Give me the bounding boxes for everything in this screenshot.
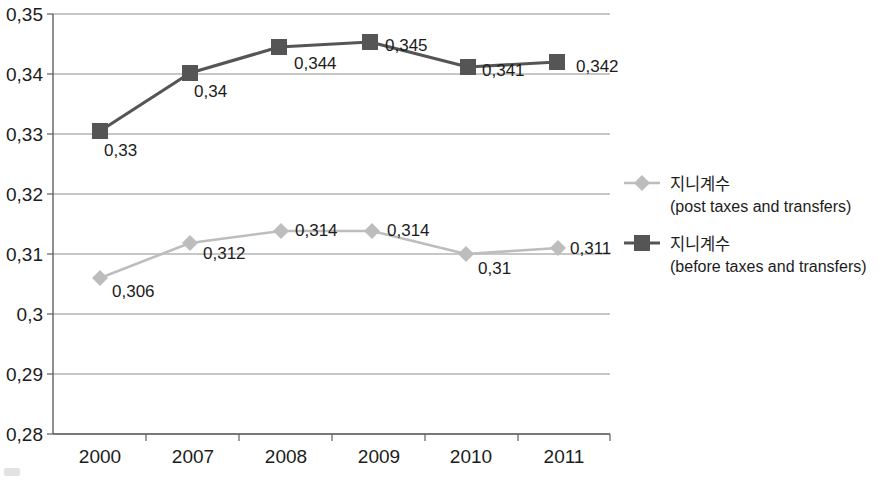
x-tick-label-2010: 2010: [450, 446, 492, 467]
legend-sublabel-post: (post taxes and transfers): [670, 198, 851, 215]
data-label-before-2007: 0,34: [194, 82, 227, 101]
data-label-before-2000: 0,33: [104, 141, 137, 160]
x-tick-label-2007: 2007: [172, 446, 214, 467]
data-point-before-2000: [92, 123, 108, 139]
data-label-post-2009: 0,314: [387, 221, 430, 240]
chart-background: [0, 0, 896, 484]
data-label-post-2010: 0,31: [478, 259, 511, 278]
data-label-post-2007: 0,312: [203, 244, 246, 263]
y-tick-label-0.28: 0,28: [6, 424, 43, 445]
data-label-post-2008: 0,314: [295, 221, 338, 240]
x-tick-label-2008: 2008: [265, 446, 307, 467]
data-point-before-2008: [271, 39, 287, 55]
y-tick-label-0.35: 0,35: [6, 4, 43, 25]
data-label-before-2010: 0,341: [482, 61, 525, 80]
legend-label-post: 지니계수: [670, 175, 730, 193]
chart-container: 0,35 0,34 0,33 0,32 0,31 0,3 0,29 0,28 2…: [0, 0, 896, 484]
y-tick-label-0.33: 0,33: [6, 124, 43, 145]
y-tick-label-0.34: 0,34: [6, 64, 43, 85]
data-point-before-2009: [362, 34, 378, 50]
data-point-before-2010: [460, 59, 476, 75]
gini-coefficient-line-chart: 0,35 0,34 0,33 0,32 0,31 0,3 0,29 0,28 2…: [0, 0, 896, 484]
y-tick-label-0.29: 0,29: [6, 364, 43, 385]
x-tick-label-2009: 2009: [358, 446, 400, 467]
legend-label-before: 지니계수: [670, 235, 730, 253]
data-point-before-2011: [549, 54, 565, 70]
x-tick-label-2011: 2011: [544, 446, 585, 467]
data-label-before-2011: 0,342: [576, 57, 619, 76]
data-label-before-2008: 0,344: [294, 54, 337, 73]
data-point-before-2007: [182, 65, 198, 81]
data-label-post-2011: 0,311: [570, 239, 611, 258]
square-marker-icon: [634, 235, 650, 251]
y-tick-label-0.32: 0,32: [6, 184, 43, 205]
scan-artifact: [4, 468, 20, 476]
legend-sublabel-before: (before taxes and transfers): [670, 258, 867, 275]
y-tick-label-0.30: 0,3: [17, 304, 43, 325]
data-label-before-2009: 0,345: [385, 36, 428, 55]
data-label-post-2000: 0,306: [112, 282, 155, 301]
x-tick-label-2000: 2000: [79, 446, 121, 467]
y-tick-label-0.31: 0,31: [6, 244, 43, 265]
